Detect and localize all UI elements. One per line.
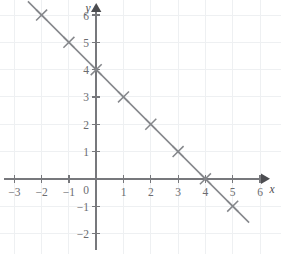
- x-tick-label: 3: [175, 186, 181, 198]
- graph-canvas: −3 −2 −1 1 2 3 4 5 6 6 5 4 3 2 1 −1 −2 0…: [0, 0, 281, 254]
- x-tick-label: 6: [257, 186, 263, 198]
- x-tick-label: 2: [148, 186, 154, 198]
- origin-label: 0: [83, 184, 89, 196]
- x-axis-tick-labels: −3 −2 −1 1 2 3 4 5 6: [8, 186, 263, 198]
- y-tick-label: 5: [83, 37, 89, 49]
- y-tick-label: 4: [83, 64, 89, 76]
- x-axis-label: x: [268, 183, 275, 195]
- y-tick-label: 3: [83, 91, 89, 103]
- gridlines-vertical: [14, 0, 260, 254]
- data-line: [28, 1, 249, 222]
- x-tick-label: 5: [230, 186, 236, 198]
- y-tick-label: 1: [83, 146, 89, 158]
- y-axis-label: y: [84, 2, 91, 15]
- y-tick-label: −1: [77, 201, 89, 213]
- x-tick-label: −2: [35, 186, 47, 198]
- y-tick-label: 2: [83, 119, 89, 131]
- x-axis: [4, 174, 270, 184]
- gridlines-horizontal: [0, 15, 281, 233]
- x-tick-label: 1: [121, 186, 127, 198]
- y-tick-label: −2: [77, 228, 89, 240]
- coordinate-graph: −3 −2 −1 1 2 3 4 5 6 6 5 4 3 2 1 −1 −2 0…: [0, 0, 281, 254]
- x-tick-label: 4: [203, 186, 209, 198]
- x-tick-label: −1: [63, 186, 75, 198]
- y-axis: [91, 3, 101, 250]
- y-axis-arrowhead: [91, 3, 101, 12]
- x-tick-label: −3: [8, 186, 20, 198]
